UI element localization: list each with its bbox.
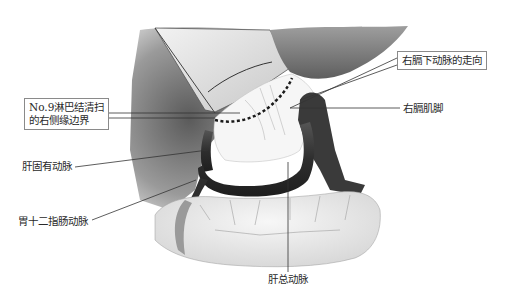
label-right-inferior-phrenic-artery-course: 右膈下动脉的走向 [397,51,487,70]
anatomy-illustration [0,0,512,298]
label-proper-hepatic-artery: 肝固有动脉 [22,160,72,173]
label-common-hepatic-artery: 肝总动脉 [268,273,308,286]
pancreas [155,192,380,267]
label-no9-line1: No.9淋巴结清扫 [29,101,104,114]
label-no9-lymph-node-boundary: No.9淋巴结清扫 的右侧缘边界 [24,98,109,130]
label-gastroduodenal-artery: 胃十二指肠动脉 [18,215,88,228]
label-no9-line2: 的右侧缘边界 [29,114,104,127]
label-right-crus-diaphragm: 右膈肌脚 [403,102,443,115]
stomach-region [270,26,408,79]
